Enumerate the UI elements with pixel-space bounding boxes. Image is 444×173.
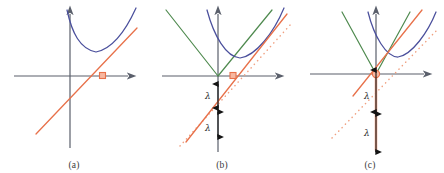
parabola-curve-a xyxy=(67,8,136,52)
lambda-label-upper-c: λ xyxy=(363,91,370,101)
figure-container: (a) xyxy=(0,0,444,173)
solid-line-c xyxy=(353,10,422,96)
caption-b: (b) xyxy=(148,160,296,170)
panel-b-plot: λ λ xyxy=(148,0,296,173)
panel-a-plot xyxy=(0,0,148,173)
caption-a: (a) xyxy=(0,160,148,170)
panel-c: λ λ (c) xyxy=(296,0,444,173)
intersection-marker-b xyxy=(230,73,236,79)
lambda-label-lower-c: λ xyxy=(363,128,370,138)
affine-line-a xyxy=(36,28,137,134)
panel-a: (a) xyxy=(0,0,148,173)
lambda-label-upper-b: λ xyxy=(204,91,211,101)
panel-c-plot: λ λ xyxy=(296,0,444,173)
intersection-marker-a xyxy=(100,73,106,79)
dotted-line-c xyxy=(332,28,439,138)
v-shape-b xyxy=(166,10,272,76)
lambda-label-lower-b: λ xyxy=(204,123,211,133)
caption-c: (c) xyxy=(296,160,444,170)
panel-b: λ λ (b) xyxy=(148,0,296,173)
